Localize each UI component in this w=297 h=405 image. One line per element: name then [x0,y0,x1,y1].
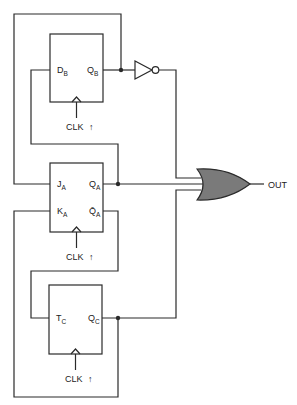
clock-label-a: CLK [66,252,84,262]
clock-arrow-icon: ↑ [89,122,94,132]
flip-flop-a-box [50,163,103,232]
output-label-out: OUT [268,180,288,190]
circuit-diagram: DB QB CLK ↑ JA KA QA Q̄A CLK ↑ TC QC CLK… [0,0,297,405]
not-gate-triangle-icon [135,61,152,79]
or-gate-icon [197,169,250,200]
clock-label-c: CLK [65,374,83,384]
clock-label-b: CLK [66,122,84,132]
clock-arrow-icon: ↑ [88,374,93,384]
wire-not-to-or [159,70,201,178]
clock-arrow-icon: ↑ [89,252,94,262]
not-gate [135,61,159,79]
flip-flop-c: TC QC CLK ↑ [49,285,102,384]
flip-flop-b: DB QB CLK ↑ [50,34,103,132]
flip-flop-a: JA KA QA Q̄A CLK ↑ [50,163,103,262]
not-gate-bubble-icon [152,67,159,74]
wire-qc-to-or [102,190,201,318]
